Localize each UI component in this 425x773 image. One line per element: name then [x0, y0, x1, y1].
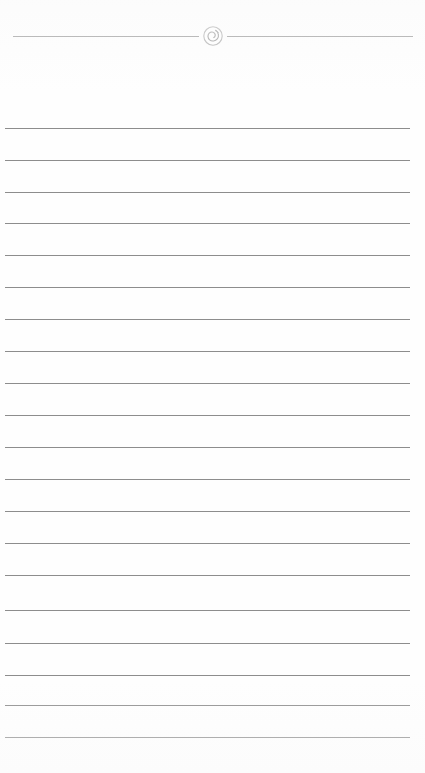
rule-line	[5, 128, 410, 129]
rule-line-group	[0, 0, 425, 773]
rule-line	[5, 255, 410, 256]
rule-line	[5, 705, 410, 706]
lined-page	[0, 0, 425, 773]
rule-line	[5, 287, 410, 288]
rule-line	[5, 351, 410, 352]
rule-line	[5, 160, 410, 161]
rule-line	[5, 675, 410, 676]
rule-line	[5, 383, 410, 384]
rule-line	[5, 610, 410, 611]
rule-line	[5, 479, 410, 480]
rule-line	[5, 223, 410, 224]
rule-line	[5, 737, 410, 738]
rule-line	[5, 575, 410, 576]
rule-line	[5, 319, 410, 320]
rule-line	[5, 511, 410, 512]
rule-line	[5, 415, 410, 416]
rule-line	[5, 543, 410, 544]
rule-line	[5, 643, 410, 644]
rule-line	[5, 447, 410, 448]
rule-line	[5, 192, 410, 193]
